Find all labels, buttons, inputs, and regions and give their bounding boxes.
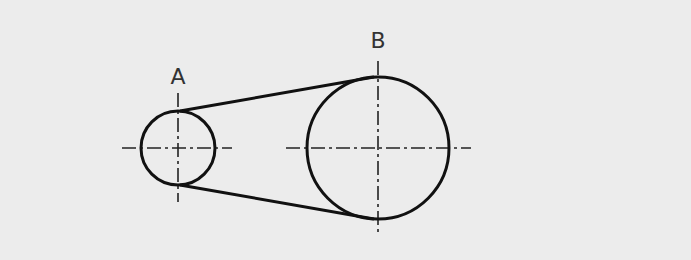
background xyxy=(0,0,691,260)
pulley-a-label: A xyxy=(170,64,185,89)
belt-drive-diagram: A B xyxy=(0,0,691,260)
pulley-b-label: B xyxy=(370,28,385,53)
